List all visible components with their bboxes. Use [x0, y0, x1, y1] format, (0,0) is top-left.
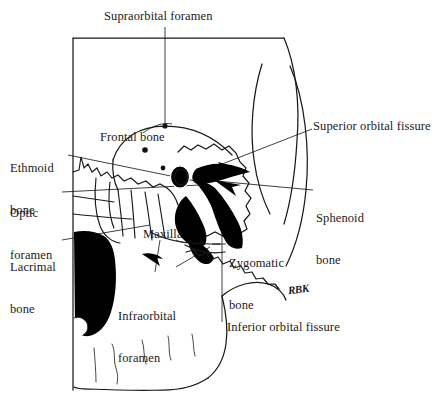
label-optic-foramen-line1: Optic [10, 206, 52, 220]
artist-signature: RBK [287, 282, 309, 296]
label-sphenoid-bone-line1: Sphenoid [316, 211, 364, 225]
label-lacrimal-bone: Lacrimal bone [10, 232, 56, 344]
skull-line-drawing [0, 0, 448, 419]
frontal-foramen-dot-1 [142, 147, 148, 153]
label-sphenoid-bone: Sphenoid bone [316, 183, 364, 295]
label-superior-orbital-fissure: Superior orbital fissure [313, 120, 431, 134]
label-lacrimal-bone-line1: Lacrimal [10, 260, 56, 274]
label-infraorbital-foramen: Infraorbital foramen [118, 281, 176, 393]
label-ethmoid-bone-line1: Ethmoid [10, 161, 54, 175]
label-supraorbital-foramen: Supraorbital foramen [104, 10, 213, 24]
label-zygomatic-bone-line1: Zygomatic [229, 256, 284, 270]
label-zygomatic-bone-line2: bone [229, 298, 284, 312]
label-frontal-bone: Frontal bone [100, 131, 165, 145]
label-sphenoid-bone-line2: bone [316, 253, 364, 267]
nasal-aperture [74, 231, 116, 336]
orbital-anatomy-figure: Supraorbital foramen Frontal bone Superi… [0, 0, 448, 419]
label-inferior-orbital-fissure: Inferior orbital fissure [227, 321, 340, 335]
infraorbital-foramen-arrow [142, 253, 163, 266]
label-lacrimal-bone-line2: bone [10, 302, 56, 316]
label-infraorbital-foramen-line1: Infraorbital [118, 309, 176, 323]
label-maxilla: Maxilla [143, 228, 183, 242]
frontal-foramen-dot-2 [161, 166, 166, 171]
label-infraorbital-foramen-line2: foramen [118, 351, 176, 365]
